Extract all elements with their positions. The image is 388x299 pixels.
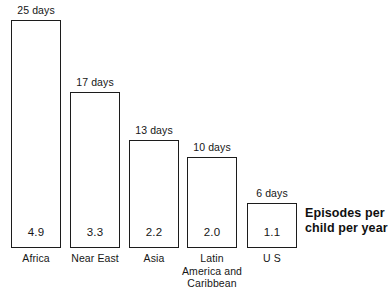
- bar-group-us: 6 days 1.1 U S: [247, 203, 297, 248]
- chart-annotation: Episodes per child per year: [305, 206, 388, 235]
- bar-group-africa: 25 days 4.9 Africa: [11, 20, 61, 248]
- bar-top-label-africa: 25 days: [17, 4, 54, 16]
- bar-chart: 25 days 4.9 Africa 17 days 3.3 Near East…: [0, 0, 388, 299]
- bar-rect-near-east[interactable]: [70, 92, 120, 248]
- bar-value-us: 1.1: [264, 226, 281, 239]
- bar-category-label-us: U S: [263, 252, 281, 265]
- category-line: Caribbean: [182, 277, 242, 290]
- bar-category-label-africa: Africa: [22, 252, 49, 265]
- bar-value-near-east: 3.3: [87, 226, 104, 239]
- annotation-line-2: child per year: [305, 221, 388, 236]
- bar-top-label-asia: 13 days: [135, 124, 172, 136]
- bar-value-asia: 2.2: [146, 226, 163, 239]
- bar-top-label-latin-america-and-caribbean: 10 days: [193, 141, 230, 153]
- category-line: Asia: [144, 252, 165, 265]
- annotation-line-1: Episodes per: [305, 206, 388, 221]
- bar-category-label-near-east: Near East: [71, 252, 119, 265]
- bar-category-label-latin-america-and-caribbean: Latin America and Caribbean: [182, 252, 242, 290]
- bar-top-label-near-east: 17 days: [76, 76, 113, 88]
- bar-group-latin-america-and-caribbean: 10 days 2.0 Latin America and Caribbean: [187, 157, 237, 248]
- bar-value-africa: 4.9: [28, 226, 45, 239]
- bar-category-label-asia: Asia: [144, 252, 165, 265]
- category-line: Africa: [22, 252, 49, 265]
- bar-top-label-us: 6 days: [256, 187, 288, 199]
- plot-area: 25 days 4.9 Africa 17 days 3.3 Near East…: [0, 0, 388, 299]
- category-line: Near East: [71, 252, 119, 265]
- bar-group-near-east: 17 days 3.3 Near East: [70, 92, 120, 248]
- bar-rect-africa[interactable]: [11, 20, 61, 248]
- category-line: America and: [182, 265, 242, 278]
- bar-value-latin-america-and-caribbean: 2.0: [204, 226, 221, 239]
- category-line: Latin: [182, 252, 242, 265]
- bar-group-asia: 13 days 2.2 Asia: [129, 140, 179, 248]
- category-line: U S: [263, 252, 281, 265]
